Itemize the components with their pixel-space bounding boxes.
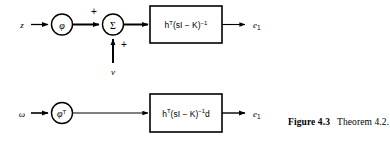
figure-caption: Figure 4.3Theorem 4.2. bbox=[288, 117, 389, 127]
transfer-block-bottom-body: (sI − K) bbox=[171, 109, 199, 119]
gain-node-label-phi: φ bbox=[59, 20, 65, 31]
sum-sign-bottom: + bbox=[121, 39, 127, 50]
disturbance-label-v: v bbox=[111, 67, 115, 77]
output-label-top-sub: 1 bbox=[257, 24, 261, 31]
gain-node-phi-sup: T bbox=[63, 109, 67, 115]
output-label-bottom-sub: 1 bbox=[257, 113, 261, 120]
transfer-block-top-sup-inv: −1 bbox=[201, 20, 209, 26]
figure-caption-label: Figure 4.3 bbox=[288, 117, 330, 127]
figure-caption-text: Theorem 4.2. bbox=[337, 117, 389, 127]
input-label-z: z bbox=[19, 20, 24, 30]
sum-sign-top: + bbox=[91, 6, 97, 17]
output-label-bottom: e1 bbox=[253, 109, 261, 120]
output-label-top: e1 bbox=[253, 20, 261, 31]
input-label-omega: ω bbox=[19, 109, 25, 119]
transfer-block-bottom-tail: d bbox=[205, 109, 210, 119]
figure-container: z φ Σ + + v hT(sI − K)−1 e1 ω φT hT(sI −… bbox=[0, 0, 390, 146]
transfer-block-top-body: (sI − K) bbox=[173, 20, 201, 30]
sum-node-label-sigma: Σ bbox=[110, 20, 116, 31]
